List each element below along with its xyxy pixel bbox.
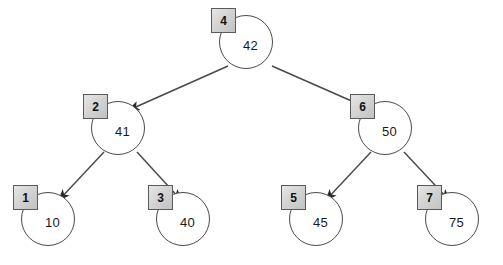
node-key-box-5: 5: [281, 185, 306, 210]
node-key-box-3: 3: [148, 185, 173, 210]
tree-node-2[interactable]: 412: [91, 101, 147, 157]
tree-node-1[interactable]: 101: [21, 192, 77, 248]
node-key-box-7: 7: [417, 185, 442, 210]
tree-node-3[interactable]: 403: [156, 192, 212, 248]
tree-node-6[interactable]: 506: [358, 101, 414, 157]
node-key-box-1: 1: [13, 185, 38, 210]
node-key-box-4: 4: [211, 8, 236, 33]
node-key-box-2: 2: [83, 94, 108, 119]
node-key-box-6: 6: [350, 94, 375, 119]
binary-tree-diagram: 424412506101403455757: [0, 0, 503, 265]
tree-node-4[interactable]: 424: [219, 15, 275, 71]
tree-node-5[interactable]: 455: [289, 192, 345, 248]
tree-node-7[interactable]: 757: [425, 192, 481, 248]
